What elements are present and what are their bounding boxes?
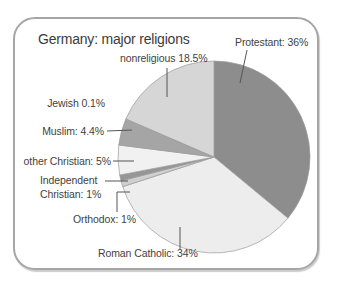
slice-label-other-christian: other Christian: 5% (24, 155, 111, 167)
slice-label-independent-christian: Independent Christian: 1% (40, 174, 101, 201)
chart-title: Germany: major religions (38, 31, 190, 47)
slice-label-muslim: Muslim: 4.4% (42, 125, 104, 137)
slice-label-orthodox: Orthodox: 1% (73, 213, 136, 225)
slice-label-jewish: Jewish 0.1% (47, 97, 105, 109)
slice-label-protestant: Protestant: 36% (235, 36, 308, 48)
slice-label-roman-catholic: Roman Catholic: 34% (98, 247, 198, 259)
slice-label-nonreligious: nonreligious 18.5% (120, 52, 208, 64)
chart-screen: Germany: major religions Protestant: 36%… (0, 0, 337, 295)
